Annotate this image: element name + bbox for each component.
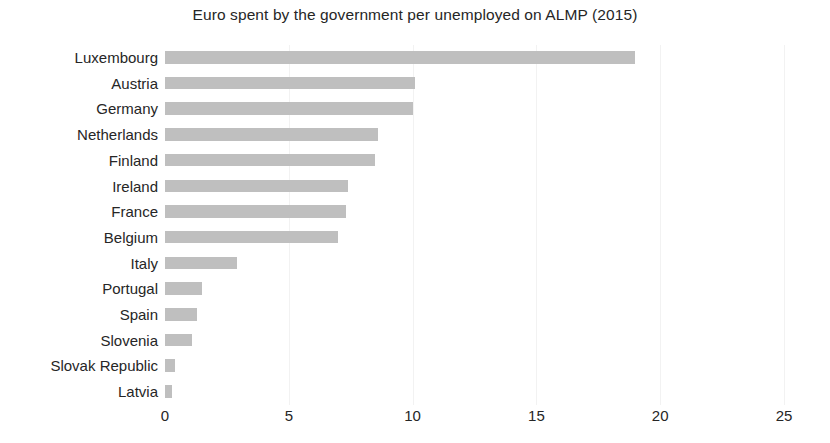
bar-row bbox=[165, 174, 784, 200]
bar-row bbox=[165, 45, 784, 71]
bar-france bbox=[165, 205, 346, 218]
y-axis-label-portugal: Portugal bbox=[102, 276, 158, 302]
y-axis-label-finland: Finland bbox=[109, 148, 158, 174]
bar-row bbox=[165, 302, 784, 328]
bar-finland bbox=[165, 154, 375, 167]
y-axis-label-italy: Italy bbox=[130, 251, 158, 277]
bar-row bbox=[165, 328, 784, 354]
y-axis-label-belgium: Belgium bbox=[104, 225, 158, 251]
y-axis-label-slovenia: Slovenia bbox=[100, 328, 158, 354]
y-axis-label-latvia: Latvia bbox=[118, 379, 158, 405]
x-axis-tick-5: 5 bbox=[259, 407, 319, 424]
y-axis-labels: LuxembourgAustriaGermanyNetherlandsFinla… bbox=[0, 45, 158, 405]
bar-austria bbox=[165, 77, 415, 90]
x-axis-tick-20: 20 bbox=[630, 407, 690, 424]
x-axis-tick-0: 0 bbox=[135, 407, 195, 424]
bar-netherlands bbox=[165, 128, 378, 141]
bar-row bbox=[165, 71, 784, 97]
bar-row bbox=[165, 379, 784, 405]
bar-italy bbox=[165, 257, 237, 270]
y-axis-label-germany: Germany bbox=[96, 96, 158, 122]
chart-title: Euro spent by the government per unemplo… bbox=[0, 6, 830, 24]
bar-slovenia bbox=[165, 334, 192, 347]
y-axis-label-austria: Austria bbox=[111, 71, 158, 97]
y-axis-label-netherlands: Netherlands bbox=[77, 122, 158, 148]
bar-belgium bbox=[165, 231, 338, 244]
y-axis-label-ireland: Ireland bbox=[112, 174, 158, 200]
x-axis-tick-15: 15 bbox=[506, 407, 566, 424]
bar-row bbox=[165, 251, 784, 277]
bar-row bbox=[165, 122, 784, 148]
bar-luxembourg bbox=[165, 51, 635, 64]
bar-portugal bbox=[165, 282, 202, 295]
x-axis-labels: 0510152025 bbox=[0, 407, 830, 437]
bar-ireland bbox=[165, 180, 348, 193]
bar-row bbox=[165, 353, 784, 379]
bar-row bbox=[165, 96, 784, 122]
y-axis-label-france: France bbox=[111, 199, 158, 225]
bar-spain bbox=[165, 308, 197, 321]
bar-row bbox=[165, 148, 784, 174]
bar-slovak-republic bbox=[165, 359, 175, 372]
bar-latvia bbox=[165, 385, 172, 398]
y-axis-label-luxembourg: Luxembourg bbox=[75, 45, 158, 71]
bar-chart-figure: Euro spent by the government per unemplo… bbox=[0, 0, 830, 443]
bar-row bbox=[165, 199, 784, 225]
bar-row bbox=[165, 276, 784, 302]
bar-row bbox=[165, 225, 784, 251]
y-axis-label-slovak-republic: Slovak Republic bbox=[50, 353, 158, 379]
plot-area bbox=[165, 45, 784, 405]
x-axis-tick-10: 10 bbox=[383, 407, 443, 424]
bars-layer bbox=[165, 45, 784, 405]
y-axis-label-spain: Spain bbox=[120, 302, 158, 328]
gridline-25 bbox=[784, 45, 785, 405]
x-axis-tick-25: 25 bbox=[754, 407, 814, 424]
bar-germany bbox=[165, 102, 413, 115]
